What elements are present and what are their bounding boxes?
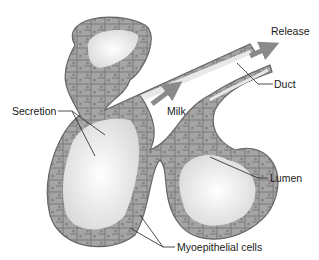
label-milk: Milk: [167, 106, 186, 117]
gland-illustration: [0, 0, 319, 260]
mammary-gland-diagram: Secretion Milk Release Duct Lumen Myoepi…: [0, 0, 319, 260]
label-duct: Duct: [274, 79, 296, 90]
label-release: Release: [271, 26, 310, 37]
label-myoepithelial-cells: Myoepithelial cells: [177, 242, 262, 253]
label-lumen: Lumen: [270, 173, 302, 184]
gland-wall: [47, 17, 278, 247]
label-secretion: Secretion: [12, 106, 56, 117]
